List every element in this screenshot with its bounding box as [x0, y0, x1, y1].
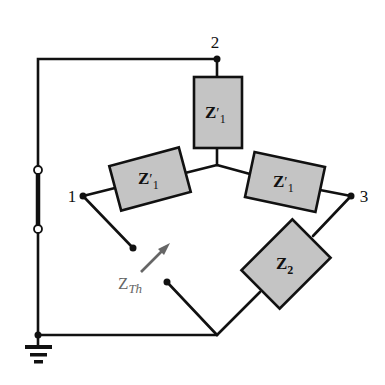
wire-zright-to-node3	[320, 190, 351, 196]
ground-node-dot	[35, 332, 42, 339]
node-2-label: 2	[211, 33, 220, 52]
node-1-label: 1	[68, 187, 77, 206]
node-3-label: 3	[360, 187, 369, 206]
thevenin-label: ZTh	[118, 274, 142, 296]
terminal-a-dot	[130, 245, 137, 252]
impedance-z1-left: Z′1	[109, 147, 190, 210]
terminal-b-dot	[164, 279, 171, 286]
impedance-z1-top: Z′1	[194, 77, 242, 148]
open-terminal-bottom	[34, 225, 42, 233]
wire-z2-to-bottom	[217, 292, 260, 335]
ground-icon	[25, 345, 52, 364]
node-1-dot	[80, 193, 87, 200]
wire-top-left	[38, 59, 217, 170]
node-2-dot	[214, 56, 221, 63]
wire-zleft-to-node1	[83, 188, 115, 196]
wire-center-to-zleft	[185, 165, 217, 173]
node-3-dot	[348, 193, 355, 200]
impedance-z1-right: Z′1	[245, 152, 325, 212]
thevenin-arrow-icon	[141, 243, 170, 272]
circuit-diagram: 2 1 3 Z′1 Z′1 Z′1 Z2 ZTh	[0, 0, 385, 385]
wire-terminal-b-to-bottom	[167, 282, 217, 335]
open-terminal-top	[34, 166, 42, 174]
wire-center-to-zright	[217, 165, 250, 174]
